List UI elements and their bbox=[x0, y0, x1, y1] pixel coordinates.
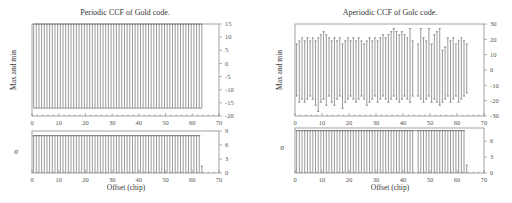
x-tick-label: 40 bbox=[136, 119, 143, 126]
right-bottom-ylabel: σ bbox=[280, 143, 284, 152]
x-tick-label: 70 bbox=[216, 119, 223, 126]
left-xlabel: Offset (chip) bbox=[107, 183, 146, 192]
right-top-plot: 010203040506070-30-20-100102030 bbox=[293, 20, 498, 126]
left-top-ylabel: Max and min bbox=[9, 50, 18, 90]
x-tick-label: 60 bbox=[189, 176, 196, 183]
x-tick-label: 50 bbox=[427, 119, 434, 126]
right-top-ylabel: Max and min bbox=[275, 50, 284, 90]
y-tick-label: 6 bbox=[490, 137, 494, 144]
y-tick-label: 3 bbox=[490, 153, 493, 160]
x-tick-label: 70 bbox=[216, 176, 223, 183]
x-tick-label: 10 bbox=[319, 176, 326, 183]
left-figure: Periodic CCF of Gold code. Max and min 0… bbox=[9, 8, 234, 192]
y-tick-label: -20 bbox=[490, 97, 499, 104]
x-tick-label: 10 bbox=[319, 119, 326, 126]
x-tick-label: 60 bbox=[454, 119, 461, 126]
x-tick-label: 0 bbox=[30, 119, 33, 126]
y-tick-label: -10 bbox=[490, 82, 499, 89]
figure-canvas: Periodic CCF of Gold code. Max and min 0… bbox=[0, 0, 512, 203]
x-tick-label: 30 bbox=[109, 176, 116, 183]
y-tick-label: 20 bbox=[490, 36, 497, 43]
x-tick-label: 20 bbox=[82, 119, 89, 126]
y-tick-label: 0 bbox=[225, 60, 228, 67]
y-tick-label: -20 bbox=[225, 112, 234, 119]
right-xlabel: Offset (chip) bbox=[371, 183, 410, 192]
x-tick-label: 30 bbox=[109, 119, 116, 126]
y-tick-label: 10 bbox=[490, 51, 497, 58]
y-tick-label: 30 bbox=[490, 20, 497, 27]
x-tick-label: 20 bbox=[346, 176, 353, 183]
x-tick-label: 20 bbox=[346, 119, 353, 126]
left-bottom-plot: 0102030405060700369 bbox=[30, 127, 229, 183]
y-tick-label: 0 bbox=[490, 169, 493, 176]
x-tick-label: 60 bbox=[189, 119, 196, 126]
x-tick-label: 30 bbox=[373, 119, 380, 126]
x-tick-label: 0 bbox=[293, 176, 296, 183]
y-tick-label: -5 bbox=[225, 73, 230, 80]
y-tick-label: 9 bbox=[225, 127, 228, 134]
y-tick-label: 15 bbox=[225, 20, 232, 27]
x-tick-label: 40 bbox=[400, 119, 407, 126]
x-tick-label: 20 bbox=[82, 176, 89, 183]
x-tick-label: 40 bbox=[400, 176, 407, 183]
right-figure: Aperiodic CCF of Golc code. Max and min … bbox=[275, 8, 499, 192]
x-tick-label: 50 bbox=[427, 176, 434, 183]
x-tick-label: 30 bbox=[373, 176, 380, 183]
x-tick-label: 50 bbox=[162, 119, 169, 126]
left-title: Periodic CCF of Gold code. bbox=[80, 8, 170, 17]
right-bottom-plot: 010203040506070036 bbox=[293, 128, 494, 183]
y-tick-label: 10 bbox=[225, 33, 232, 40]
y-tick-label: 5 bbox=[225, 46, 228, 53]
y-tick-label: 3 bbox=[225, 155, 228, 162]
x-tick-label: 60 bbox=[454, 176, 461, 183]
x-tick-label: 40 bbox=[136, 176, 143, 183]
x-tick-label: 0 bbox=[30, 176, 33, 183]
y-tick-label: 0 bbox=[225, 169, 228, 176]
x-tick-label: 10 bbox=[55, 176, 62, 183]
y-tick-label: 0 bbox=[490, 66, 493, 73]
left-bottom-ylabel: σ bbox=[14, 147, 18, 156]
left-top-plot: 010203040506070-20-15-10-5051015 bbox=[30, 20, 233, 126]
y-tick-label: -30 bbox=[490, 112, 499, 119]
x-tick-label: 70 bbox=[481, 176, 488, 183]
y-tick-label: -10 bbox=[225, 86, 234, 93]
x-tick-label: 70 bbox=[481, 119, 488, 126]
x-tick-label: 10 bbox=[55, 119, 62, 126]
x-tick-label: 50 bbox=[162, 176, 169, 183]
y-tick-label: 6 bbox=[225, 141, 229, 148]
x-tick-label: 0 bbox=[293, 119, 296, 126]
y-tick-label: -15 bbox=[225, 99, 234, 106]
right-title: Aperiodic CCF of Golc code. bbox=[343, 8, 437, 17]
